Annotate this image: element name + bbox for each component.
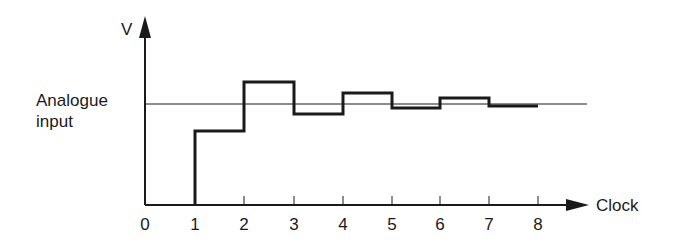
tick-label: 2 bbox=[239, 215, 248, 234]
tick-label: 4 bbox=[338, 215, 347, 234]
y-axis-label: V bbox=[121, 20, 133, 39]
x-axis-label: Clock bbox=[596, 196, 639, 215]
tick-label: 3 bbox=[289, 215, 298, 234]
tick-label: 1 bbox=[190, 215, 199, 234]
x-axis-ticks bbox=[244, 196, 538, 205]
tick-label: 8 bbox=[533, 215, 542, 234]
analogue-input-label-line1: Analogue bbox=[36, 91, 108, 110]
x-axis-arrow-icon bbox=[566, 199, 589, 211]
tick-label: 5 bbox=[387, 215, 396, 234]
y-axis-arrow-icon bbox=[139, 16, 151, 38]
analogue-input-label-line2: input bbox=[36, 112, 73, 131]
tick-label: 0 bbox=[140, 215, 149, 234]
approximation-staircase bbox=[195, 82, 538, 205]
tick-label: 7 bbox=[484, 215, 493, 234]
x-axis-tick-labels: 0 1 2 3 4 5 6 7 8 bbox=[140, 215, 542, 234]
tick-label: 6 bbox=[435, 215, 444, 234]
successive-approximation-diagram: V Clock 0 1 2 3 4 5 6 7 8 Analogue input bbox=[0, 0, 682, 249]
